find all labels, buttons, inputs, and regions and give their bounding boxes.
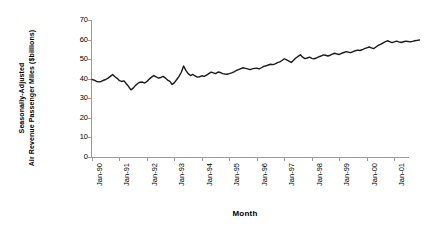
- chart-container: Seasonally-Adjusted Air Revenue Passenge…: [0, 0, 424, 231]
- x-axis-title: Month: [150, 209, 340, 218]
- series-line: [92, 40, 419, 90]
- series-line-layer: [0, 0, 424, 231]
